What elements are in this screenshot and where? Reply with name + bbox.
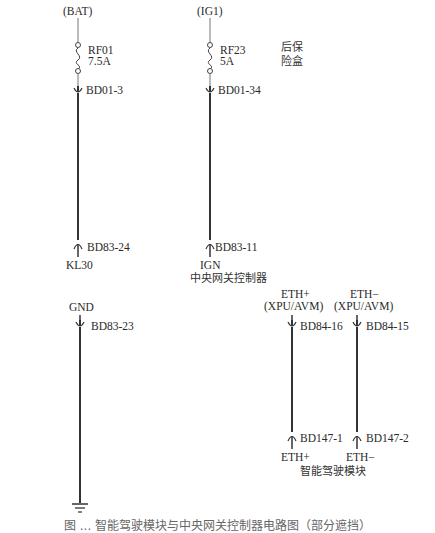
fuse-box-label-2: 险盒 xyxy=(281,56,303,68)
ground-icon xyxy=(72,504,88,512)
module-title: 智能驾驶模块 xyxy=(300,466,366,478)
connector-bd84-15: BD84-15 xyxy=(366,320,409,332)
gateway-title: 中央网关控制器 xyxy=(190,273,267,285)
connector-icon xyxy=(206,86,214,92)
connector-bd83-24: BD83-24 xyxy=(87,241,130,253)
connector-icon xyxy=(353,436,361,449)
source-bat-label: (BAT) xyxy=(63,5,92,17)
connector-bd147-2: BD147-2 xyxy=(366,432,409,444)
figure-caption: 图 ... 智能驾驶模块与中央网关控制器电路图（部分遮挡） xyxy=(0,516,435,533)
connector-bd01-34: BD01-34 xyxy=(218,84,261,96)
connector-icon xyxy=(353,320,361,326)
connector-icon xyxy=(74,86,82,92)
source-ig1-label: (IG1) xyxy=(197,5,223,17)
fuse-rf01-rating: 7.5A xyxy=(88,55,111,67)
pin-gnd: GND xyxy=(69,301,94,313)
pin-eth-minus: ETH− xyxy=(350,288,379,300)
connector-bd01-3: BD01-3 xyxy=(86,84,123,96)
connector-bd83-11: BD83-11 xyxy=(215,241,257,253)
module-pin-eth-minus: ETH− xyxy=(346,451,375,463)
pin-ign: IGN xyxy=(200,259,220,271)
connector-bd84-16: BD84-16 xyxy=(300,320,343,332)
fuse-rf23-rating: 5A xyxy=(220,55,234,67)
pin-eth-plus-sub: (XPU/AVM) xyxy=(264,300,323,312)
fuse-icon xyxy=(76,43,81,74)
pin-kl30: KL30 xyxy=(66,259,93,271)
connector-icon xyxy=(76,320,84,326)
fuse-icon xyxy=(208,43,213,74)
connector-bd83-23: BD83-23 xyxy=(91,320,134,332)
connector-bd147-1: BD147-1 xyxy=(300,432,343,444)
module-pin-eth-plus: ETH+ xyxy=(281,451,310,463)
connector-icon xyxy=(288,436,296,449)
connector-icon xyxy=(288,320,296,326)
pin-eth-minus-sub: (XPU/AVM) xyxy=(334,300,393,312)
connector-icon xyxy=(206,244,214,257)
fuse-box-label-1: 后保 xyxy=(281,42,303,54)
pin-eth-plus: ETH+ xyxy=(281,288,310,300)
connector-icon xyxy=(74,244,82,257)
